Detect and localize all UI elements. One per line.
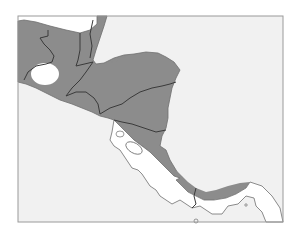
island (111, 61, 113, 63)
island (123, 56, 126, 58)
lake-managua (116, 131, 124, 137)
map-figure (0, 0, 297, 246)
map-svg (0, 0, 297, 246)
